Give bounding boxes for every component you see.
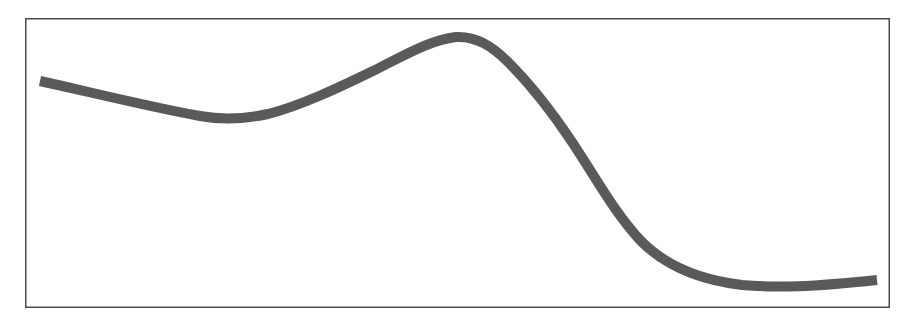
plot-background xyxy=(26,19,890,308)
figure-root xyxy=(0,0,913,328)
line-chart-svg xyxy=(0,0,913,328)
